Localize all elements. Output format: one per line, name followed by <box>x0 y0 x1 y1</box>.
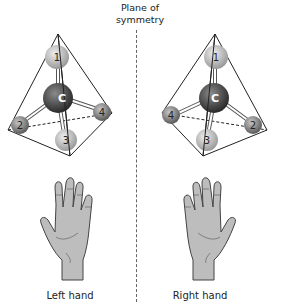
atom-label-2: 2 <box>17 120 23 131</box>
carbon-label: C <box>211 92 219 105</box>
atom-label-2: 2 <box>250 120 256 131</box>
right-hand-label: Right hand <box>160 290 240 301</box>
atom-label-4: 4 <box>99 107 105 118</box>
carbon-label: C <box>58 92 66 105</box>
atom-label-4: 4 <box>168 110 174 121</box>
left-hand-label: Left hand <box>30 290 110 301</box>
right-tetrahedral-molecule: 1 C 4 3 2 <box>140 0 281 160</box>
left-tetrahedral-molecule: 1 C 2 3 4 <box>0 0 136 160</box>
atom-label-3: 3 <box>63 135 69 146</box>
left-hand-icon <box>38 175 98 281</box>
atom-label-1: 1 <box>213 52 219 63</box>
atom-label-3: 3 <box>204 135 210 146</box>
right-hand-icon <box>178 175 238 281</box>
symmetry-plane-line <box>136 30 137 302</box>
atom-label-1: 1 <box>54 52 60 63</box>
